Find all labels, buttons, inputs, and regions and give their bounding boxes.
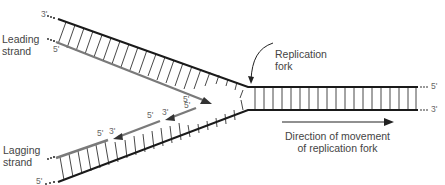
duplex-base-pairs — [255, 87, 416, 110]
top-parent-strand — [58, 19, 418, 87]
right-bottom-3prime: 3' — [431, 104, 437, 114]
leading-new-strand — [56, 42, 203, 100]
leading-5prime: 5' — [53, 44, 59, 54]
top-left-3prime: 3' — [41, 9, 47, 19]
okazaki-fragment-2 — [118, 121, 160, 137]
fork-pointer-arrow — [251, 43, 273, 80]
leading-label-line1: Leading — [2, 33, 39, 45]
replication-fork-label: Replication fork — [275, 48, 327, 72]
okazaki1-3prime: 3' — [109, 126, 115, 136]
replication-fork-diagram — [0, 0, 445, 185]
fork-label-line1: Replication — [275, 48, 327, 60]
bottom-left-5prime: 5' — [36, 176, 42, 185]
okazaki-fragment-1 — [56, 140, 108, 158]
leading-label-line2: strand — [2, 45, 39, 57]
lagging-strand-label: Lagging strand — [3, 144, 40, 168]
okazaki2-3prime: 3' — [162, 107, 168, 117]
fork-label-line2: fork — [275, 60, 327, 72]
lagging-label-line2: strand — [3, 156, 40, 168]
lagging-label-line1: Lagging — [3, 144, 40, 156]
direction-label-line1: Direction of movement — [280, 130, 395, 142]
direction-label-line2: of replication fork — [280, 142, 395, 154]
upper-arm-base-pairs — [58, 22, 243, 98]
okazaki2-5prime: 5' — [147, 110, 153, 120]
right-top-5prime: 5' — [431, 81, 437, 91]
direction-label: Direction of movement of replication for… — [280, 130, 395, 154]
okazaki3-5prime: 5' — [184, 100, 190, 110]
direction-arrowhead — [384, 118, 394, 126]
okazaki1-5prime: 5' — [97, 128, 103, 138]
leading-strand-label: Leading strand — [2, 33, 39, 57]
strand-dotted-ends — [45, 15, 428, 185]
